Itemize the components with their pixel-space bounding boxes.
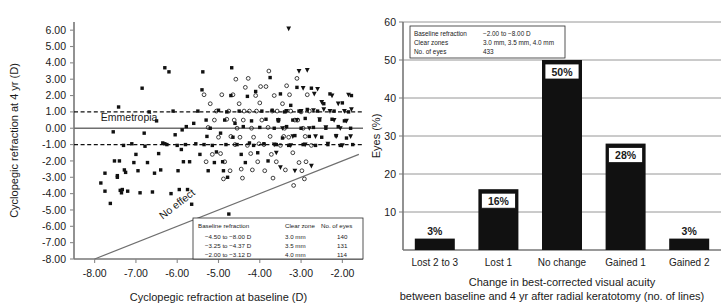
scatter-point-circle <box>269 152 273 156</box>
scatter-point-square <box>240 153 243 156</box>
scatter-point-square <box>224 143 227 146</box>
scatter-point-square <box>140 86 143 89</box>
scatter-point-square <box>264 118 267 121</box>
scatter-point-square <box>316 109 319 112</box>
bar-gained-2[interactable] <box>669 239 709 250</box>
scatter-point-square <box>206 169 209 172</box>
bar-lost-2-to-3[interactable] <box>415 239 455 250</box>
bar-value-label: 3% <box>427 225 443 237</box>
scatter-point-square <box>196 109 199 112</box>
scatter-point-square <box>121 188 124 191</box>
scatter-point-square <box>215 150 218 153</box>
bar-info-value: 3.0 mm, 3.5 mm, 4.0 mm <box>483 39 554 46</box>
scatter-point-square <box>295 86 298 89</box>
scatter-legend-header: No. of eyes <box>321 222 352 229</box>
bar-category-label: Gained 1 <box>605 257 646 268</box>
scatter-point-circle <box>220 93 224 97</box>
bar-y-tick-label: 50 <box>384 54 396 66</box>
scatter-x-axis-title: Cyclopegic refraction at baseline (D) <box>130 291 307 303</box>
bar-y-axis-title: Eyes (%) <box>370 114 382 159</box>
scatter-point-circle <box>285 84 289 88</box>
bar-value-label: 3% <box>682 225 698 237</box>
scatter-y-tick-label: -5.00 <box>42 204 66 216</box>
scatter-point-triangle <box>309 164 314 169</box>
scatter-y-tick-label: 0.00 <box>46 122 67 134</box>
scatter-point-triangle <box>286 26 291 31</box>
scatter-point-triangle <box>342 109 347 114</box>
bar-info-label: No. of eyes <box>414 48 446 56</box>
scatter-y-axis-title: Cyclopegic refraction at 4 yr (D) <box>8 63 20 218</box>
scatter-point-square <box>180 128 183 131</box>
scatter-point-square <box>201 70 204 73</box>
scatter-point-square <box>103 171 106 174</box>
scatter-point-circle <box>217 135 221 139</box>
scatter-point-square <box>142 131 145 134</box>
scatter-point-square <box>194 142 197 145</box>
bar-svg: 1020304050603%Lost 2 to 316%Lost 150%No … <box>370 0 724 307</box>
scatter-point-circle <box>222 177 226 181</box>
scatter-point-square <box>153 171 156 174</box>
scatter-x-tick-label: -4.00 <box>248 267 272 279</box>
scatter-point-circle <box>219 152 223 156</box>
scatter-point-circle <box>210 152 214 156</box>
scatter-point-circle <box>275 109 279 113</box>
bar-info-label: Baseline refraction <box>414 30 467 37</box>
scatter-y-tick-label: 6.00 <box>46 24 67 36</box>
scatter-point-square <box>266 159 269 162</box>
scatter-x-tick-label: -8.00 <box>83 267 107 279</box>
scatter-y-tick-label: -2.00 <box>42 155 66 167</box>
scatter-point-square <box>157 152 160 155</box>
scatter-point-circle <box>242 109 246 113</box>
scatter-y-tick-label: 3.00 <box>46 73 67 85</box>
scatter-point-square <box>173 133 176 136</box>
scatter-y-tick-label: 2.00 <box>46 89 67 101</box>
scatter-point-square <box>213 161 216 164</box>
scatter-point-circle <box>232 118 236 122</box>
scatter-point-square <box>244 161 247 164</box>
scatter-point-square <box>136 169 139 172</box>
scatter-point-square <box>202 143 205 146</box>
scatter-point-square <box>116 176 119 179</box>
bar-x-axis-title-line1: Change in best-corrected visual acuity <box>469 276 656 288</box>
scatter-point-square <box>180 148 183 151</box>
scatter-point-circle <box>302 177 306 181</box>
scatter-point-square <box>219 131 222 134</box>
scatter-point-circle <box>252 135 256 139</box>
scatter-point-circle <box>274 160 278 164</box>
scatter-point-square <box>222 169 225 172</box>
scatter-point-square <box>134 153 137 156</box>
scatter-point-square <box>350 94 353 97</box>
scatter-point-triangle <box>321 107 326 112</box>
scatter-point-circle <box>228 169 232 173</box>
scatter-point-circle <box>288 93 292 97</box>
scatter-point-square <box>279 92 282 95</box>
scatter-x-tick-label: -6.00 <box>165 267 189 279</box>
scatter-point-square <box>192 122 195 125</box>
scatter-y-tick-label: -8.00 <box>42 253 66 265</box>
scatter-point-square <box>165 143 168 146</box>
scatter-point-square <box>200 88 203 91</box>
scatter-point-triangle <box>292 169 297 174</box>
scatter-point-square <box>126 189 129 192</box>
bar-info-value: −2.00 to −8.00 D <box>483 30 531 37</box>
scatter-point-square <box>320 136 323 139</box>
scatter-point-circle <box>246 76 250 80</box>
scatter-legend-cell: 3.0 mm <box>285 233 306 240</box>
scatter-legend-cell: 3.5 mm <box>285 242 306 249</box>
emmetropia-label: Emmetropia <box>101 111 158 123</box>
scatter-point-circle <box>254 94 258 98</box>
scatter-point-square <box>122 144 125 147</box>
scatter-point-square <box>163 66 166 69</box>
bar-x-axis-title-line2: between baseline and 4 yr after radial k… <box>400 290 705 302</box>
scatter-point-circle <box>258 101 262 105</box>
scatter-point-circle <box>305 93 309 97</box>
scatter-y-tick-label: 1.00 <box>46 105 67 117</box>
scatter-point-circle <box>249 152 253 156</box>
scatter-point-circle <box>234 77 238 81</box>
scatter-panel: 6.005.004.003.002.001.000.00-1.00-2.00-3… <box>0 0 370 307</box>
scatter-point-circle <box>264 85 268 89</box>
scatter-point-square <box>188 160 191 163</box>
scatter-point-square <box>146 161 149 164</box>
scatter-point-square <box>167 70 170 73</box>
bar-no-change[interactable] <box>542 60 582 250</box>
